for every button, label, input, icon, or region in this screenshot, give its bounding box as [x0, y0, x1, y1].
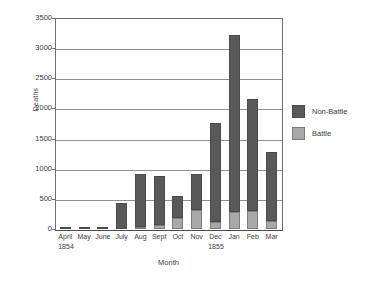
x-axis-tick-label: Mar	[262, 233, 281, 245]
stacked-bar-chart: Deaths 3500300025002000150010005000 Apri…	[0, 0, 375, 281]
legend-swatch-nonbattle	[292, 105, 305, 118]
bar-segment-non-battle[interactable]	[210, 123, 221, 222]
bar-column[interactable]	[244, 19, 263, 229]
bar-segment-non-battle[interactable]	[229, 35, 240, 212]
bar-segment-battle[interactable]	[191, 210, 202, 229]
bar-segment-battle[interactable]	[247, 211, 258, 229]
bar-segment-battle[interactable]	[154, 225, 165, 229]
y-axis-tick-label: 3000	[24, 44, 52, 52]
stacked-bar[interactable]	[79, 227, 90, 229]
y-axis-tick-label: 500	[24, 195, 52, 203]
x-axis-year-1854: 1854	[56, 243, 76, 250]
bar-segment-non-battle[interactable]	[266, 152, 277, 221]
bar-segment-battle[interactable]	[266, 221, 277, 229]
stacked-bar[interactable]	[191, 174, 202, 229]
x-axis-tick-label: May	[75, 233, 94, 245]
bar-column[interactable]	[187, 19, 206, 229]
bar-column[interactable]	[112, 19, 131, 229]
bar-segment-non-battle[interactable]	[79, 227, 90, 229]
y-axis-tick-label: 0	[24, 225, 52, 233]
stacked-bar[interactable]	[210, 123, 221, 229]
x-axis-tick-label: Feb	[244, 233, 263, 245]
bar-segment-non-battle[interactable]	[116, 203, 127, 229]
bar-segment-non-battle[interactable]	[247, 99, 258, 210]
stacked-bar[interactable]	[247, 99, 258, 229]
legend-item[interactable]: Non-Battle	[292, 105, 372, 118]
y-axis-tick-label: 1000	[24, 165, 52, 173]
bar-column[interactable]	[150, 19, 169, 229]
legend-label: Non-Battle	[312, 107, 347, 116]
bar-segment-battle[interactable]	[135, 227, 146, 229]
bar-segment-battle[interactable]	[172, 218, 183, 229]
bar-column[interactable]	[131, 19, 150, 229]
bar-segment-non-battle[interactable]	[135, 174, 146, 227]
legend-item[interactable]: Battle	[292, 127, 372, 140]
stacked-bar[interactable]	[266, 152, 277, 229]
bar-column[interactable]	[56, 19, 75, 229]
stacked-bar[interactable]	[60, 227, 71, 229]
bar-series-group	[56, 19, 281, 229]
x-axis-tick-label: July	[112, 233, 131, 245]
x-axis-tick-label: Aug	[131, 233, 150, 245]
stacked-bar[interactable]	[135, 174, 146, 229]
stacked-bar[interactable]	[97, 227, 108, 229]
x-axis-tick-labels: AprilMayJuneJulyAugSeptOctNovDecJanFebMa…	[56, 233, 281, 245]
bar-column[interactable]	[169, 19, 188, 229]
bar-segment-non-battle[interactable]	[191, 174, 202, 211]
bar-column[interactable]	[75, 19, 94, 229]
bar-segment-non-battle[interactable]	[172, 196, 183, 218]
y-axis-tick-label: 1500	[24, 135, 52, 143]
stacked-bar[interactable]	[229, 35, 240, 229]
chart-legend: Non-BattleBattle	[292, 105, 372, 149]
stacked-bar[interactable]	[154, 176, 165, 229]
x-axis-tick-label: Oct	[169, 233, 188, 245]
x-axis-tick-label: Jan	[225, 233, 244, 245]
y-axis-tick-label: 3500	[24, 14, 52, 22]
bar-segment-non-battle[interactable]	[154, 176, 165, 225]
legend-label: Battle	[312, 129, 331, 138]
x-axis-tick-label: Nov	[187, 233, 206, 245]
stacked-bar[interactable]	[172, 196, 183, 229]
bar-column[interactable]	[225, 19, 244, 229]
x-axis-tick-label: June	[94, 233, 113, 245]
bar-column[interactable]	[262, 19, 281, 229]
stacked-bar[interactable]	[116, 203, 127, 229]
y-axis-tick-label: 2000	[24, 104, 52, 112]
x-axis-year-1855: 1855	[206, 243, 226, 250]
bar-column[interactable]	[94, 19, 113, 229]
x-axis-tick-label: Sept	[150, 233, 169, 245]
bar-segment-non-battle[interactable]	[60, 227, 71, 229]
bar-segment-battle[interactable]	[210, 222, 221, 229]
x-axis-title: Month	[56, 258, 281, 267]
bar-column[interactable]	[206, 19, 225, 229]
y-axis-tick-label: 2500	[24, 74, 52, 82]
bar-segment-non-battle[interactable]	[97, 227, 108, 229]
legend-swatch-battle	[292, 127, 305, 140]
bar-segment-battle[interactable]	[229, 212, 240, 229]
